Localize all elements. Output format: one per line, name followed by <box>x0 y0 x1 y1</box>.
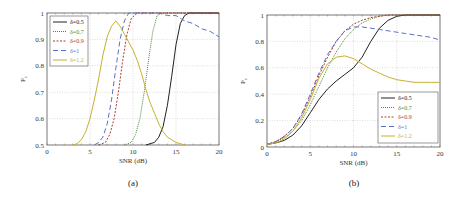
chart-a: 051015200.50.60.70.80.91SNR (dB)Pc(a)δ=0… <box>19 10 223 189</box>
x-axis-label: SNR (dB) <box>119 157 148 165</box>
x-tick-label: 10 <box>350 150 358 158</box>
y-tick-label: 0 <box>261 144 265 152</box>
y-tick-label: 0.4 <box>255 91 264 99</box>
y-tick-label: 1 <box>261 12 265 20</box>
figure-caption: (b) <box>349 178 360 188</box>
y-tick-label: 0.2 <box>255 117 264 125</box>
legend-label: δ=0.9 <box>398 114 412 120</box>
y-axis-label: Pc <box>19 75 28 82</box>
y-tick-label: 0.7 <box>35 89 44 97</box>
legend-label: δ=1 <box>398 124 407 130</box>
y-tick-label: 0.8 <box>35 62 44 70</box>
legend-label: δ=1.2 <box>70 57 84 63</box>
legend-label: δ=1 <box>70 48 79 54</box>
y-tick-label: 0.9 <box>35 36 44 44</box>
y-tick-label: 0.6 <box>255 64 264 72</box>
x-tick-label: 20 <box>437 150 445 158</box>
x-tick-label: 5 <box>309 150 313 158</box>
legend-label: δ=0.9 <box>70 38 84 44</box>
y-tick-label: 0.5 <box>35 142 44 150</box>
figure-caption: (a) <box>128 178 138 188</box>
chart-b: 0510152000.20.40.60.81SNR (dB)Pc(b)δ=0.5… <box>239 12 444 189</box>
legend-label: δ=0.5 <box>398 95 412 101</box>
x-tick-label: 10 <box>130 148 138 156</box>
x-axis-label: SNR (dB) <box>339 159 368 167</box>
legend-label: δ=1.2 <box>398 133 412 139</box>
x-tick-label: 15 <box>173 148 181 156</box>
x-tick-label: 0 <box>45 148 49 156</box>
legend-label: δ=0.5 <box>70 19 84 25</box>
figure: 051015200.50.60.70.80.91SNR (dB)Pc(a)δ=0… <box>0 0 467 199</box>
x-tick-label: 5 <box>88 148 92 156</box>
x-tick-label: 20 <box>216 148 224 156</box>
y-axis-label: Pc <box>239 77 248 84</box>
legend-label: δ=0.7 <box>398 105 412 111</box>
x-tick-label: 15 <box>393 150 401 158</box>
y-tick-label: 0.8 <box>255 38 264 46</box>
legend-label: δ=0.7 <box>70 29 84 35</box>
y-tick-label: 1 <box>41 10 45 18</box>
legend: δ=0.5δ=0.7δ=0.9δ=1δ=1.2 <box>50 16 88 66</box>
x-tick-label: 0 <box>265 150 269 158</box>
legend: δ=0.5δ=0.7δ=0.9δ=1δ=1.2 <box>378 92 438 143</box>
y-tick-label: 0.6 <box>35 115 44 123</box>
